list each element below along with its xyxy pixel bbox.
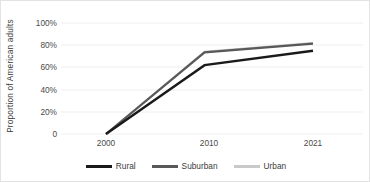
y-axis-title-text: Proportion of American adults — [5, 19, 15, 133]
series-line-rural — [106, 51, 313, 134]
plot-area — [61, 15, 363, 141]
y-tick-60: 60% — [15, 62, 61, 72]
y-tick-20: 20% — [15, 107, 61, 117]
chart-legend: Rural Suburban Urban — [1, 161, 370, 171]
series-line-suburban — [106, 44, 313, 134]
plot-svg — [61, 15, 363, 141]
y-tick-80: 80% — [15, 40, 61, 50]
y-tick-100: 100% — [15, 18, 61, 28]
legend-item-suburban: Suburban — [152, 161, 218, 171]
y-tick-40: 40% — [15, 85, 61, 95]
legend-label-suburban: Suburban — [182, 161, 218, 171]
legend-swatch-suburban — [152, 165, 178, 168]
legend-label-rural: Rural — [116, 161, 136, 171]
y-axis-tick-labels: 100% 80% 60% 40% 20% 0 — [15, 1, 61, 182]
line-chart: Proportion of American adults 100% 80% 6… — [0, 0, 370, 182]
gridlines — [61, 23, 363, 134]
legend-item-rural: Rural — [86, 161, 136, 171]
legend-swatch-urban — [234, 165, 260, 168]
series-lines — [106, 43, 313, 134]
series-line-urban — [106, 43, 313, 134]
legend-label-urban: Urban — [264, 161, 287, 171]
legend-swatch-rural — [86, 165, 112, 168]
legend-item-urban: Urban — [234, 161, 287, 171]
y-tick-0: 0 — [15, 129, 61, 139]
